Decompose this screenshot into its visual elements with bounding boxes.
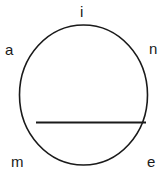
vertex-label-a: a	[5, 42, 13, 57]
vertex-label-m: m	[11, 154, 24, 169]
vertex-label-e: e	[147, 154, 155, 169]
vertex-label-i: i	[80, 4, 83, 19]
diagram-canvas: i a n m e	[0, 0, 168, 178]
circle-chord-figure	[0, 0, 168, 178]
circle-outline	[20, 25, 148, 165]
vertex-label-n: n	[149, 41, 157, 56]
